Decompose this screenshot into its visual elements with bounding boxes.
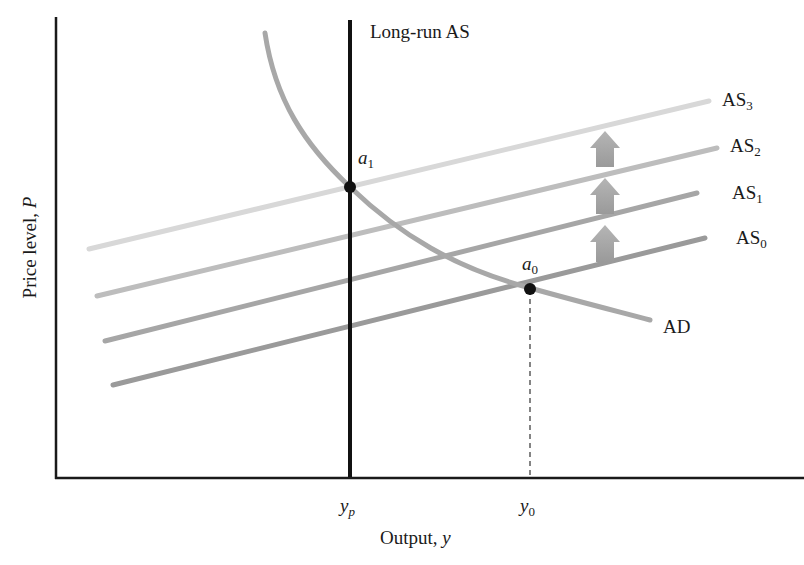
arrow-up-icon [590, 131, 620, 167]
arrow-up-icon [590, 178, 620, 214]
ad-label: AD [663, 317, 690, 336]
lras-label: Long-run AS [370, 22, 470, 41]
arrow-up-icon [590, 225, 620, 262]
as1-label: AS1 [732, 183, 763, 205]
y-axis-label: Price level, P [20, 158, 39, 338]
point-a0 [524, 283, 536, 295]
point-a1-label: a1 [358, 148, 374, 170]
x-axis-label: Output, y [380, 528, 451, 547]
as2-label: AS2 [730, 136, 761, 158]
shift-up-arrows [590, 131, 620, 262]
point-a0-label: a0 [522, 254, 538, 276]
ad-as-diagram [0, 0, 804, 565]
as1-curve [105, 193, 697, 341]
x-tick-y0: y0 [520, 496, 535, 518]
as3-label: AS3 [722, 90, 753, 112]
as2-curve [97, 148, 717, 296]
point-a1 [344, 181, 356, 193]
x-tick-yp: yp [340, 496, 355, 518]
as0-label: AS0 [736, 228, 767, 250]
